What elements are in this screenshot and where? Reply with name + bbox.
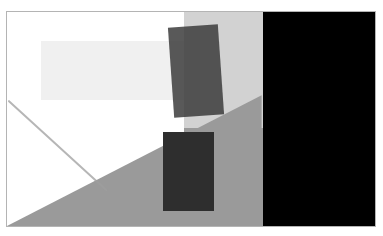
plot-frame (6, 11, 376, 227)
composition-stage (7, 12, 375, 226)
rotated-dark-rectangle (168, 24, 224, 117)
thin-diagonal-line (9, 101, 106, 190)
dark-rectangle-lower-center (163, 132, 214, 211)
black-right-panel (263, 12, 375, 226)
image-canvas (0, 0, 383, 236)
